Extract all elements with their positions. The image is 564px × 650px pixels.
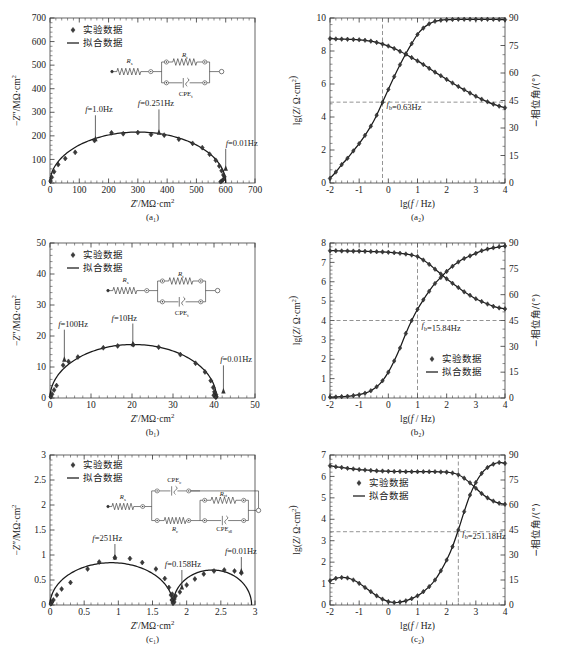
y-tick-label: 3 (321, 536, 326, 546)
y-tick-label: 0 (41, 178, 46, 188)
y-tick-label: 50 (37, 238, 47, 248)
data-marker-group (49, 555, 243, 606)
data-point-impedance (427, 66, 431, 71)
legend-experimental-label: 实验数据 (369, 477, 409, 488)
data-point-phase (352, 578, 356, 583)
x-axis-title: Z′/MΩ·cm2 (131, 619, 175, 631)
y-tick-label: 3 (41, 450, 46, 460)
x-tick-label: 4 (503, 185, 508, 195)
data-point-impedance (451, 81, 455, 86)
x-tick-label: 600 (219, 185, 234, 195)
data-point-phase (404, 599, 408, 604)
data-point (69, 580, 73, 585)
data-point-phase (387, 599, 391, 604)
cpec-icon (174, 486, 177, 494)
annotation-f3: f=0.01Hz (220, 354, 252, 364)
circuit-terminal-dot (162, 280, 163, 281)
y-tick-label-right: 30 (509, 342, 519, 352)
circuit-terminal-dot (146, 290, 147, 291)
y-tick-label: 2.5 (34, 475, 46, 485)
y-tick-label: 0 (321, 393, 326, 403)
data-point-impedance (357, 467, 361, 472)
breakpoint-frequency-label: fb=0.63Hz (387, 99, 422, 111)
data-point-impedance (416, 59, 420, 64)
legend-fitted-label: 拟合数据 (83, 37, 123, 48)
data-point-impedance (357, 249, 361, 254)
x-axis-title: Z′/MΩ·cm2 (131, 197, 175, 209)
y-tick-label-right: 45 (509, 316, 519, 326)
data-point-impedance (375, 40, 379, 45)
data-point-impedance (410, 253, 414, 258)
data-point (167, 585, 171, 590)
data-point-phase (416, 594, 420, 599)
x-tick-label: 2.5 (215, 607, 227, 617)
equivalent-circuit-diagram: RsRtCPEt (111, 51, 224, 98)
x-tick-label: 0 (386, 400, 391, 410)
annotation-f3: f=0.01Hz (226, 138, 258, 148)
y-tick-label: 100 (32, 155, 47, 165)
data-point-impedance (357, 37, 361, 42)
y-tick-label-right: 75 (509, 41, 519, 51)
x-tick-label: 0 (48, 185, 53, 195)
rs-resistor-icon (113, 287, 137, 294)
panel-caption: (b₂) (411, 427, 425, 437)
data-point-impedance (392, 250, 396, 255)
circuit-terminal-dot (200, 301, 201, 302)
data-point-impedance (398, 469, 402, 474)
y-tick-label: 20 (37, 331, 47, 341)
x-tick-label: 3 (473, 185, 478, 195)
circuit-terminal-dot (204, 61, 205, 62)
equivalent-circuit-diagram: RsRtCPEt (107, 270, 220, 317)
data-point-impedance (334, 464, 338, 469)
data-point-impedance (486, 496, 490, 501)
rs-label: Rs (126, 57, 133, 66)
fitted-curve (50, 132, 226, 183)
x-axis-title: lg(f / Hz) (400, 414, 435, 425)
x-tick-label: 4 (503, 607, 508, 617)
cpedl-label: CPEdl (216, 525, 233, 534)
rc-resistor-icon (164, 517, 186, 524)
data-point-impedance (439, 73, 443, 78)
x-tick-label: 200 (101, 185, 116, 195)
y-tick-label: 1.5 (34, 525, 46, 535)
x-tick-label: 50 (250, 400, 260, 410)
legend-fitted-label: 拟合数据 (369, 490, 409, 501)
impedance-curve (330, 39, 505, 108)
data-point (128, 556, 132, 561)
data-point-phase (334, 576, 338, 581)
annot-arrow-icon (224, 165, 228, 171)
y-tick-label-right: 90 (509, 450, 519, 460)
data-point-impedance (486, 302, 490, 307)
panel-caption: (a₁) (146, 212, 159, 222)
y-tick-label-right: 90 (509, 238, 519, 248)
x-tick-label: -1 (355, 607, 363, 617)
data-point-phase (462, 256, 466, 261)
y-tick-label: 10 (37, 362, 47, 372)
data-point-phase (363, 391, 367, 396)
data-point-impedance (363, 468, 367, 473)
y-tick-label-right: 90 (509, 13, 519, 23)
y-tick-label: 700 (32, 13, 47, 23)
x-tick-label: 10 (86, 400, 96, 410)
data-point-impedance (334, 248, 338, 253)
circuit-terminal-dot (156, 520, 157, 521)
data-point-impedance (457, 84, 461, 89)
cpet-icon (186, 78, 189, 86)
data-point-impedance (392, 469, 396, 474)
y-tick-label: 1 (321, 579, 326, 589)
data-point-impedance (328, 248, 332, 253)
legend-fitted-label: 拟合数据 (83, 472, 123, 483)
y-axis-title: −Z″/MΩ·cm2 (10, 294, 22, 346)
data-point-phase (357, 581, 361, 586)
data-point-phase (352, 393, 356, 398)
data-point-phase (497, 460, 501, 465)
data-point-impedance (410, 469, 414, 474)
data-point-impedance (387, 250, 391, 255)
data-point-impedance (387, 44, 391, 49)
y-tick-label-right: 0 (509, 393, 514, 403)
data-point-impedance (492, 102, 496, 107)
breakpoint-frequency-label: fb=15.84Hz (422, 320, 461, 332)
circuit-terminal-dot (200, 280, 201, 281)
x-axis-title: lg(f / Hz) (400, 199, 435, 210)
y-tick-label: 2 (41, 500, 46, 510)
